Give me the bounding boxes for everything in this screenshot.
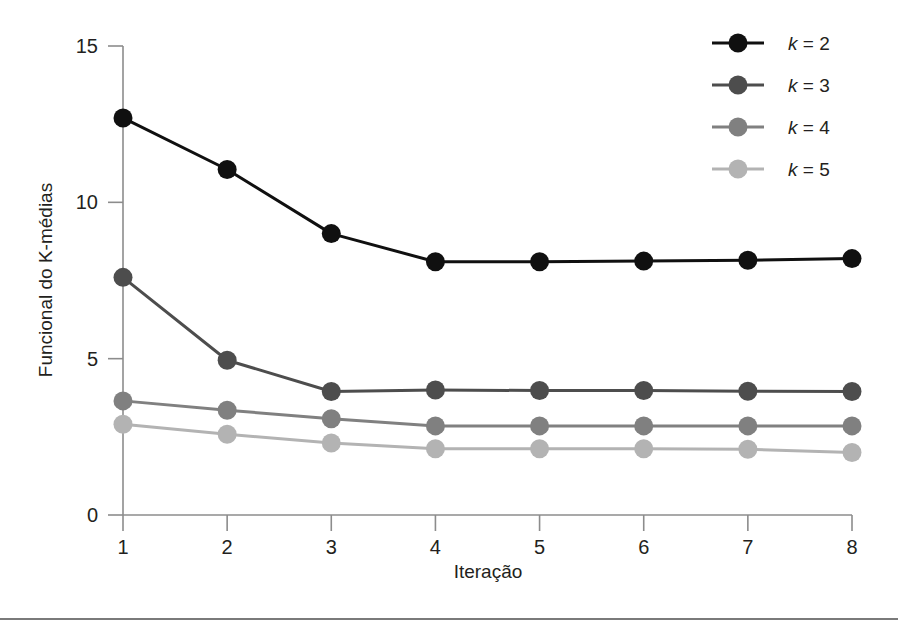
- data-point-marker: [738, 440, 757, 459]
- legend-swatch-marker: [729, 34, 748, 53]
- data-point-marker: [218, 160, 237, 179]
- data-point-marker: [634, 381, 653, 400]
- x-tick-label: 4: [430, 536, 441, 558]
- data-point-marker: [843, 416, 862, 435]
- legend-item-3[interactable]: k = 4: [712, 117, 830, 138]
- data-point-marker: [530, 439, 549, 458]
- figure-container: 051015 Funcional do K-médias 12345678 It…: [0, 0, 898, 631]
- legend-label: k = 3: [788, 75, 830, 96]
- data-point-marker: [530, 416, 549, 435]
- data-point-marker: [738, 416, 757, 435]
- series-line: [123, 277, 852, 391]
- data-point-marker: [634, 416, 653, 435]
- data-point-marker: [530, 381, 549, 400]
- data-point-marker: [114, 108, 133, 127]
- y-tick-label: 0: [87, 504, 98, 526]
- data-point-marker: [322, 434, 341, 453]
- x-tick-label: 5: [534, 536, 545, 558]
- legend-item-4[interactable]: k = 5: [712, 159, 830, 180]
- series-line: [123, 118, 852, 262]
- y-axis-title: Funcional do K-médias: [35, 183, 56, 377]
- x-tick-label: 6: [638, 536, 649, 558]
- chart-legend: k = 2k = 3k = 4k = 5: [712, 33, 830, 180]
- data-point-marker: [322, 224, 341, 243]
- data-point-marker: [426, 439, 445, 458]
- legend-label: k = 4: [788, 117, 830, 138]
- data-point-marker: [738, 382, 757, 401]
- legend-item-2[interactable]: k = 3: [712, 75, 830, 96]
- data-point-marker: [426, 252, 445, 271]
- data-point-marker: [114, 268, 133, 287]
- data-point-marker: [843, 382, 862, 401]
- data-point-marker: [843, 249, 862, 268]
- legend-swatch-marker: [729, 160, 748, 179]
- data-point-marker: [322, 409, 341, 428]
- x-tick-label: 2: [222, 536, 233, 558]
- x-axis: 12345678 Iteração: [117, 515, 857, 582]
- y-tick-label: 10: [76, 191, 98, 213]
- series-1: [114, 108, 862, 271]
- series-2: [114, 268, 862, 401]
- data-point-marker: [634, 252, 653, 271]
- legend-item-1[interactable]: k = 2: [712, 33, 830, 54]
- y-tick-label-group: 051015: [76, 35, 98, 526]
- data-point-marker: [218, 351, 237, 370]
- legend-label: k = 2: [788, 33, 830, 54]
- y-tick-label: 15: [76, 35, 98, 57]
- data-point-marker: [218, 401, 237, 420]
- data-point-marker: [426, 416, 445, 435]
- legend-swatch-marker: [729, 118, 748, 137]
- x-tick-label: 7: [742, 536, 753, 558]
- data-point-marker: [218, 425, 237, 444]
- legend-swatch-marker: [729, 76, 748, 95]
- data-point-marker: [530, 252, 549, 271]
- data-point-marker: [634, 439, 653, 458]
- y-tick-label: 5: [87, 348, 98, 370]
- legend-label: k = 5: [788, 159, 830, 180]
- x-axis-title: Iteração: [454, 561, 523, 582]
- data-point-marker: [738, 251, 757, 270]
- x-tick-label-group: 12345678: [117, 536, 857, 558]
- series-plot-area: [114, 108, 862, 462]
- data-point-marker: [322, 382, 341, 401]
- x-tick-label: 3: [326, 536, 337, 558]
- data-point-marker: [426, 380, 445, 399]
- kmeans-objective-line-chart: 051015 Funcional do K-médias 12345678 It…: [0, 0, 898, 631]
- x-tick-label: 8: [846, 536, 857, 558]
- data-point-marker: [114, 415, 133, 434]
- x-tick-label: 1: [117, 536, 128, 558]
- y-axis: 051015 Funcional do K-médias: [35, 35, 123, 526]
- data-point-marker: [114, 391, 133, 410]
- x-tick-group: [123, 515, 852, 531]
- data-point-marker: [843, 443, 862, 462]
